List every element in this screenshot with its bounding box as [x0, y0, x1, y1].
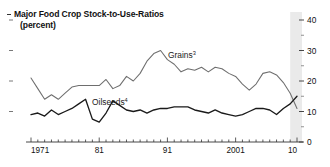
- series-label-grains: Grains3: [168, 50, 196, 60]
- y-tick-label: 0: [307, 137, 312, 147]
- y-tick-label: 40: [307, 15, 317, 25]
- series-label-oilseeds: Oilseeds4: [92, 97, 128, 107]
- x-tick-label: 10: [288, 146, 298, 155]
- y-tick-label: 20: [307, 76, 317, 86]
- series-line-grains: [31, 51, 297, 109]
- y-axis-labels: 010203040: [307, 15, 317, 147]
- x-axis-labels: 19718191200110: [31, 146, 297, 155]
- x-tick-label: 2001: [227, 146, 246, 155]
- series-lines: [31, 51, 297, 123]
- y-tick-label: 30: [307, 46, 317, 56]
- axis-tick-marks: [9, 20, 304, 142]
- series-line-oilseeds: [31, 96, 297, 122]
- projection-shade-band: [290, 12, 302, 142]
- y-tick-label: 10: [307, 107, 317, 117]
- x-tick-label: 91: [163, 146, 173, 155]
- chart-container: Major Food Crop Stock-to-Use-Ratios (per…: [0, 0, 330, 167]
- chart-plot: 010203040 19718191200110 Grains3 Oilseed…: [0, 0, 330, 167]
- x-tick-label: 1971: [31, 146, 50, 155]
- x-tick-label: 81: [95, 146, 105, 155]
